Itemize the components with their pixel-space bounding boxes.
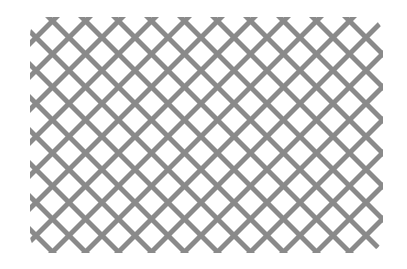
lattice-graphic xyxy=(30,17,383,253)
lattice-panel xyxy=(30,17,383,253)
